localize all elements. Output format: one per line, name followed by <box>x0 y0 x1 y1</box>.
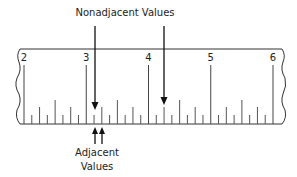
ruler: 23456 <box>16 49 286 124</box>
arrow-down-icon <box>92 102 99 110</box>
arrow-down-icon <box>161 97 168 105</box>
ruler-number-label: 6 <box>270 52 276 63</box>
adjacent-label-line1: Adjacent <box>75 147 119 158</box>
left-break-edge <box>16 49 20 124</box>
adjacent-arrows <box>92 127 105 144</box>
ruler-number-label: 5 <box>208 52 214 63</box>
nonadjacent-values-label: Nonadjacent Values <box>75 7 174 18</box>
ruler-number-label: 4 <box>145 52 151 63</box>
right-break-edge <box>282 49 286 124</box>
arrow-up-icon <box>99 127 105 134</box>
ruler-number-label: 3 <box>83 52 89 63</box>
ruler-diagram: Nonadjacent Values 23456 Adjacent Values <box>0 0 297 177</box>
ruler-ticks <box>24 65 273 124</box>
ruler-numbers: 23456 <box>21 52 276 63</box>
adjacent-label-line2: Values <box>81 161 114 172</box>
ruler-number-label: 2 <box>21 52 27 63</box>
arrow-up-icon <box>92 127 98 134</box>
nonadjacent-arrows <box>92 26 168 110</box>
